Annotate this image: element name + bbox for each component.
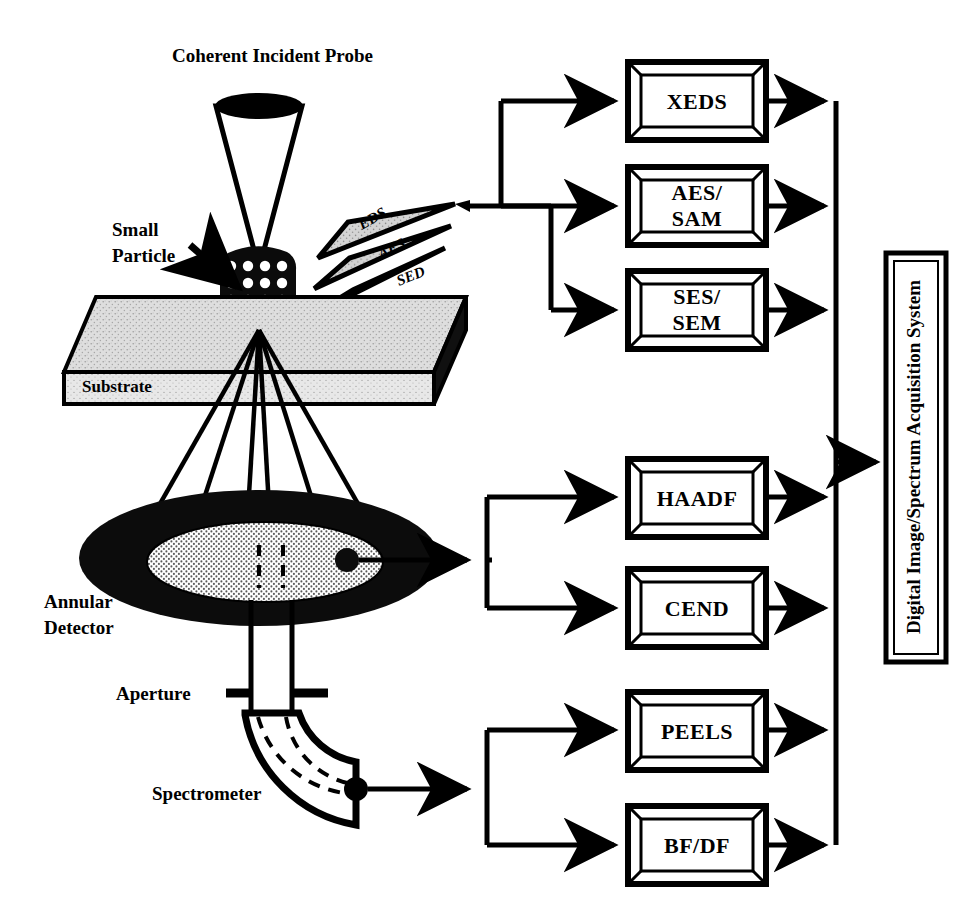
detector-box-bf-df[interactable]: BF/DF — [628, 806, 766, 884]
detector-box-xeds-label: XEDS — [667, 89, 728, 114]
detector-box-haadf-label: HAADF — [657, 486, 738, 511]
detector-box-cend-label: CEND — [665, 596, 729, 621]
probe-cap-ellipse — [215, 93, 303, 119]
aperture: Aperture — [116, 683, 328, 704]
small-particle-label: Small Particle — [112, 219, 238, 287]
spectrometer-label: Spectrometer — [152, 783, 262, 804]
upper-signal-routing — [470, 101, 614, 310]
detector-box-aes-sam-label-line2: SAM — [672, 206, 722, 231]
detector-box-cend[interactable]: CEND — [628, 569, 766, 647]
detector-box-haadf[interactable]: HAADF — [628, 459, 766, 537]
incident-probe-cone — [215, 93, 303, 269]
acquisition-output-bus — [766, 101, 876, 845]
detector-node-dot — [335, 548, 359, 572]
detector-box-peels[interactable]: PEELS — [628, 692, 766, 770]
annular-detector-label-line2: Detector — [44, 617, 114, 638]
detector-box-aes-sam-label-line1: AES/ — [672, 180, 723, 205]
detector-box-ses-sem-label-line1: SES/ — [673, 284, 721, 309]
acquisition-system-label: Digital Image/Spectrum Acquisition Syste… — [903, 280, 924, 634]
spectrometer-body — [245, 713, 356, 825]
annular-detector-label-line1: Annular — [44, 591, 113, 612]
aperture-label: Aperture — [116, 683, 191, 704]
page-title: Coherent Incident Probe — [172, 45, 373, 66]
substrate-label: Substrate — [82, 377, 152, 396]
annular-detector: Annular Detector — [44, 490, 439, 638]
detector-box-aes-sam[interactable]: AES/ SAM — [628, 167, 766, 245]
detector-box-xeds[interactable]: XEDS — [628, 62, 766, 140]
detector-box-ses-sem[interactable]: SES/ SEM — [628, 271, 766, 349]
spectrometer-output-node — [344, 777, 368, 801]
small-particle-label-line2: Particle — [112, 245, 175, 266]
stem-schematic-diagram: Coherent Incident Probe Small Particle — [0, 0, 979, 903]
small-particle-label-line1: Small — [112, 219, 158, 240]
detector-box-bf-df-label: BF/DF — [664, 833, 730, 858]
detector-box-ses-sem-label-line2: SEM — [672, 310, 721, 335]
acquisition-system-box[interactable]: Digital Image/Spectrum Acquisition Syste… — [886, 253, 946, 662]
lower-signal-routing — [368, 730, 614, 845]
spectrometer: Spectrometer — [152, 713, 368, 825]
detector-box-peels-label: PEELS — [661, 719, 733, 744]
